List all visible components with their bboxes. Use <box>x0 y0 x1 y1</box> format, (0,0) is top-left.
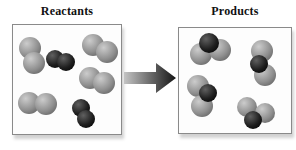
gray-atom <box>19 37 41 59</box>
gray-gray-dark-triatomic-molecule <box>179 28 291 133</box>
products-title: Products <box>178 4 292 19</box>
gray-atom <box>96 41 118 63</box>
reactants-box <box>12 24 122 135</box>
gray-atom <box>82 34 104 56</box>
dark-atom <box>72 99 90 117</box>
gray-atom <box>23 52 45 74</box>
gray-gray-dark-triatomic-molecule <box>179 28 291 133</box>
gray-diatomic-molecule <box>13 25 121 134</box>
reaction-diagram: Reactants Products <box>0 0 296 150</box>
dark-atom <box>57 53 75 71</box>
gray-atom <box>93 72 115 94</box>
gray-atom <box>187 75 209 97</box>
dark-diatomic-molecule <box>13 25 121 134</box>
dark-atom <box>199 33 219 53</box>
gray-atom <box>18 92 40 114</box>
gray-atom <box>35 93 57 115</box>
gray-gray-dark-triatomic-molecule <box>179 28 291 133</box>
gray-atom <box>254 64 276 86</box>
gray-atom <box>209 39 231 61</box>
dark-atom <box>250 55 268 73</box>
dark-atom <box>244 111 262 129</box>
gray-diatomic-molecule <box>13 25 121 134</box>
gray-atom <box>237 97 257 117</box>
reactants-title: Reactants <box>12 4 122 19</box>
dark-diatomic-molecule <box>13 25 121 134</box>
gray-atom <box>255 103 275 123</box>
dark-atom <box>46 50 64 68</box>
reaction-arrow-icon <box>124 60 178 96</box>
gray-diatomic-molecule <box>13 25 121 134</box>
dark-atom <box>199 84 217 102</box>
products-box <box>178 27 292 134</box>
gray-diatomic-molecule <box>13 25 121 134</box>
gray-atom <box>79 67 101 89</box>
dark-atom <box>77 110 95 128</box>
gray-atom <box>191 95 213 117</box>
gray-atom <box>190 43 212 65</box>
gray-gray-dark-triatomic-molecule <box>179 28 291 133</box>
gray-atom <box>251 40 273 62</box>
